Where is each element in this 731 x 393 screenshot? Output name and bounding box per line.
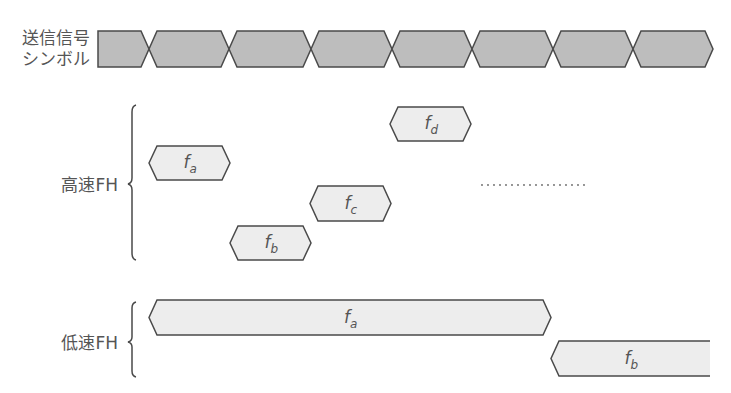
slow-fh-brace bbox=[128, 302, 136, 377]
slow-fh-hops: fafb bbox=[149, 300, 710, 376]
tx-symbol bbox=[633, 31, 713, 67]
tx-symbol bbox=[392, 31, 472, 67]
continuation-ellipsis bbox=[481, 184, 585, 186]
tx-symbol bbox=[149, 31, 229, 67]
diagram-graphics: fafbfcfd fafb bbox=[0, 0, 731, 393]
tx-symbol bbox=[311, 31, 392, 67]
tx-symbol bbox=[553, 31, 633, 67]
tx-symbol bbox=[98, 31, 149, 67]
tx-symbol bbox=[229, 31, 311, 67]
fast-fh-brace bbox=[128, 105, 136, 260]
fh-timing-diagram: 送信信号 シンボル 高速FH 低速FH fafbfcfd fafb bbox=[0, 0, 731, 393]
fast-fh-hops: fafbfcfd bbox=[149, 107, 471, 260]
tx-symbol-row bbox=[98, 31, 713, 67]
tx-symbol bbox=[472, 31, 553, 67]
